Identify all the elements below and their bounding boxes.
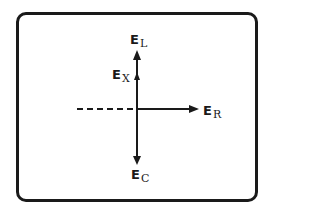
label-el-sub: L — [140, 37, 147, 50]
arrowhead-ec-icon — [133, 156, 141, 165]
label-er-main: E — [203, 103, 212, 118]
label-ex-main: E — [112, 67, 121, 82]
label-er: ER — [203, 104, 221, 117]
label-er-sub: R — [213, 108, 221, 121]
label-ex-sub: X — [122, 72, 130, 85]
label-ec-sub: C — [141, 172, 149, 185]
label-ex: EX — [112, 68, 130, 81]
arrowhead-el-icon — [133, 50, 141, 60]
label-ec: EC — [131, 168, 149, 181]
arrowhead-ex-icon — [134, 72, 140, 80]
label-el: EL — [130, 33, 147, 46]
label-ec-main: E — [131, 167, 140, 182]
arrowhead-er-icon — [189, 105, 199, 113]
label-el-main: E — [130, 32, 139, 47]
